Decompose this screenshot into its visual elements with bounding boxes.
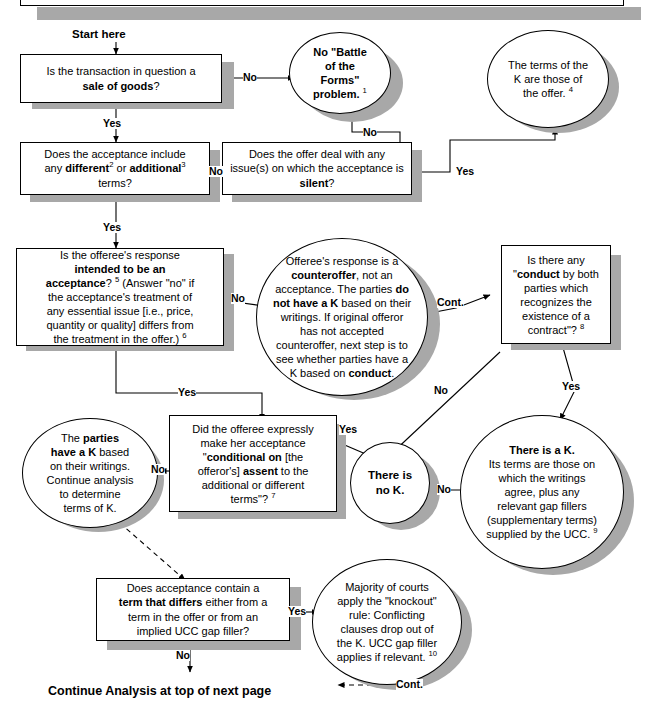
edge-label-no-14: No <box>437 484 451 495</box>
node-term-that-differs: Does acceptance contain aterm that diffe… <box>96 578 290 641</box>
node-terms-of-offer-text: The terms of theK are those ofthe offer.… <box>488 58 608 100</box>
edge-label-cont-9: Cont. <box>437 297 464 308</box>
node-sale-of-goods: Is the transaction in question asale of … <box>20 54 222 103</box>
edge-label-no-1: No <box>243 72 257 83</box>
truncated-top-box <box>20 0 624 6</box>
node-counteroffer-text: Offeree's response is acounteroffer, not… <box>257 254 427 380</box>
node-intended-acceptance-text: Is the offeree's responseintended to be … <box>17 248 223 346</box>
node-offer-silent-text: Does the offer deal with anyissue(s) on … <box>223 147 411 191</box>
truncated-top-box-shadow <box>37 7 641 20</box>
node-acceptance-include-text: Does the acceptance includeany different… <box>21 147 209 191</box>
node-no-battle: No "Battleof theForms"problem. 1 <box>289 32 391 114</box>
footer-continue-analysis: Continue Analysis at top of next page <box>48 684 271 698</box>
node-term-that-differs-text: Does acceptance contain aterm that diffe… <box>97 581 289 639</box>
node-intended-acceptance: Is the offeree's responseintended to be … <box>16 248 224 346</box>
edge-label-no-3: No <box>209 166 223 177</box>
edge-label-yes-16: Yes <box>288 606 306 617</box>
node-there-is-a-k-text: There is a K.Its terms are those onwhich… <box>461 443 623 541</box>
edge-label-no-12: No <box>151 464 165 475</box>
node-offer-silent: Does the offer deal with anyissue(s) on … <box>222 142 412 195</box>
edge-label-no-11: No <box>434 385 448 396</box>
node-no-k-text: There isno K. <box>351 468 429 498</box>
node-there-is-a-k: There is a K.Its terms are those onwhich… <box>460 415 624 569</box>
edge-label-yes-2: Yes <box>103 118 121 129</box>
edge-label-no-7: No <box>231 293 245 304</box>
edge-label-cont-17: Cont. <box>396 679 423 690</box>
edge-label-yes-6: Yes <box>103 222 121 233</box>
edge-label-yes-13: Yes <box>339 424 357 435</box>
node-counteroffer: Offeree's response is acounteroffer, not… <box>256 238 428 396</box>
edge-label-no-4: No <box>363 127 377 138</box>
start-here-label: Start here <box>72 28 126 40</box>
edge-label-no-15: No <box>176 650 190 661</box>
edge-label-yes-10: Yes <box>562 381 580 392</box>
node-sale-of-goods-text: Is the transaction in question asale of … <box>21 64 221 94</box>
flowchart-page: Start here Is the transaction in questio… <box>0 0 645 714</box>
node-knockout: Majority of courtsapply the "knockout"ru… <box>312 559 462 685</box>
edge-label-yes-8: Yes <box>178 387 196 398</box>
node-acceptance-include: Does the acceptance includeany different… <box>20 142 210 195</box>
node-no-battle-text: No "Battleof theForms"problem. 1 <box>290 45 390 101</box>
edge-label-yes-5: Yes <box>456 166 474 177</box>
node-parties-have-k-text: The partieshave a K basedon their writin… <box>23 431 157 515</box>
node-conditional-on: Did the offeree expresslymake her accept… <box>169 415 337 512</box>
node-terms-of-offer: The terms of theK are those ofthe offer.… <box>487 30 609 128</box>
node-knockout-text: Majority of courtsapply the "knockout"ru… <box>313 580 461 664</box>
node-parties-have-k: The partieshave a K basedon their writin… <box>22 418 158 528</box>
node-no-k: There isno K. <box>350 442 430 524</box>
node-conditional-on-text: Did the offeree expresslymake her accept… <box>170 422 336 506</box>
node-conduct-text: Is there any"conduct by bothparties whic… <box>502 253 610 337</box>
node-conduct: Is there any"conduct by bothparties whic… <box>501 245 611 344</box>
